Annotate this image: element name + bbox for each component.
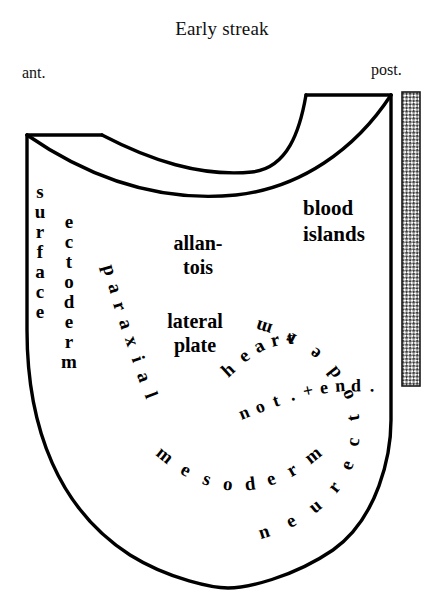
glyph: t [60,252,78,272]
glyph: d [243,473,256,496]
glyph: m [60,352,78,372]
label-blood-islands: blood islands [303,196,365,247]
glyph: e [60,312,78,332]
label-ectoderm: ectoderm [60,212,78,372]
glyph: e [60,212,78,232]
label-blood-islands-line1: blood [303,196,365,222]
glyph: a [31,262,49,282]
primitive-streak-hatched-bar [402,92,420,386]
label-lateral-plate-line2: plate [143,333,247,357]
glyph: s [31,182,49,202]
glyph: e [31,302,49,322]
glyph: c [60,232,78,252]
glyph: f [31,242,49,262]
glyph: o [60,272,78,292]
label-allantois-line2: tois [152,255,244,279]
crescent-lower-curve [27,95,391,196]
glyph: r [31,222,49,242]
label-surface: surface [31,182,49,322]
label-allantois: allan- tois [152,231,244,279]
crescent-upper-curve [102,95,306,173]
glyph: d [60,292,78,312]
label-lateral-plate: lateral plate [143,309,247,357]
glyph: u [31,202,49,222]
label-blood-islands-line2: islands [303,222,365,248]
figure-canvas: Early streak ant. post. blood islands al… [0,0,444,604]
glyph: . [370,375,375,396]
glyph: r [60,332,78,352]
glyph: c [31,282,49,302]
label-allantois-line1: allan- [152,231,244,255]
label-lateral-plate-line1: lateral [143,309,247,333]
